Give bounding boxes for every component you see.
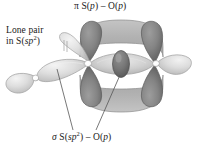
lone-pair-sp2-small-lobe xyxy=(6,73,34,93)
leader-line-lone-pair xyxy=(57,69,73,130)
pi-lobe-lower-right xyxy=(141,66,162,107)
pi-orbital1: p xyxy=(90,1,95,11)
lone-pair-line2: in S(sp2) xyxy=(6,36,44,47)
lone-pair-sp2-large-lobe xyxy=(37,59,86,81)
lone-pair-line1: Lone pair xyxy=(6,25,44,36)
label-lone-pair: Lone pair in S(sp2) xyxy=(6,25,44,47)
node-oxygen xyxy=(153,61,160,67)
lone-pair-suffix: ) xyxy=(37,36,40,46)
lone-pair-prefix: in S( xyxy=(6,36,25,46)
label-pi-bond: π S(p) – O(p) xyxy=(74,1,126,12)
orbital-diagram-figure: π S(p) – O(p) Lone pair in S(sp2) σ S(sp… xyxy=(0,0,200,149)
pi-atom1: S xyxy=(81,1,86,11)
pi-orbital2: p xyxy=(118,1,123,11)
node-sulfur xyxy=(84,60,91,66)
sigma-sup: 2 xyxy=(77,130,80,137)
pi-lobe-lower-left xyxy=(80,66,101,107)
orbital-diagram-canvas xyxy=(0,0,200,149)
sigma-atom1: S xyxy=(59,132,64,142)
label-sigma-bond: σ S(sp2) – O(p) xyxy=(52,132,111,143)
sigma-orbital2: p xyxy=(103,132,108,142)
pi-lobe-upper-right xyxy=(141,21,162,62)
pi-atom2: O xyxy=(108,1,115,11)
o-p-lobe-right xyxy=(157,55,191,75)
sigma-atom2: O xyxy=(93,132,100,142)
sigma-orbital1: sp xyxy=(68,132,77,142)
node-lone-pair xyxy=(32,75,38,81)
sigma-core-oval xyxy=(113,51,130,78)
